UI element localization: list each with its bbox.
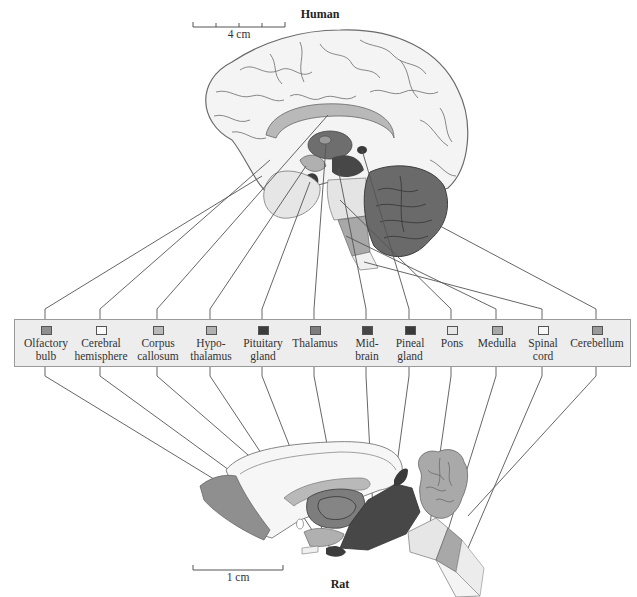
human-brain-illustration xyxy=(206,30,468,270)
legend-swatch xyxy=(41,326,52,335)
legend-swatch xyxy=(592,326,603,335)
legend-swatch xyxy=(447,326,458,335)
legend-item-hypothalamus: Hypo-thalamus xyxy=(181,320,241,363)
legend-label-line1: Spinal xyxy=(513,337,573,350)
legend-swatch xyxy=(362,326,373,335)
legend-label-line1: Hypo- xyxy=(181,337,241,350)
legend-swatch xyxy=(405,326,416,335)
legend-item-spinal-cord: Spinalcord xyxy=(513,320,573,363)
human-scale-label: 4 cm xyxy=(209,28,269,40)
legend-swatch xyxy=(492,326,503,335)
legend-swatch xyxy=(153,326,164,335)
human-scale-bar xyxy=(193,22,285,27)
legend-item-corpus-callosum: Corpuscallosum xyxy=(128,320,188,363)
legend-label-line2: hemisphere xyxy=(71,350,131,363)
figure-artwork xyxy=(0,0,637,597)
legend-label-line1: Olfactory xyxy=(16,337,76,350)
legend-item-cerebral-hemisphere: Cerebralhemisphere xyxy=(71,320,131,363)
legend-label-line2: bulb xyxy=(16,350,76,363)
legend-swatch xyxy=(538,326,549,335)
legend-swatch xyxy=(206,326,217,335)
brain-comparison-figure: Human 4 cm Rat 1 cm OlfactorybulbCerebra… xyxy=(0,0,637,597)
legend-label-line1: Cerebellum xyxy=(567,337,627,350)
legend-label-line2: gland xyxy=(380,350,440,363)
legend: OlfactorybulbCerebralhemisphereCorpuscal… xyxy=(14,319,631,367)
legend-item-cerebellum: Cerebellum xyxy=(567,320,627,350)
legend-label-line1: Cerebral xyxy=(71,337,131,350)
legend-label-line1: Thalamus xyxy=(285,337,345,350)
legend-item-olfactory-bulb: Olfactorybulb xyxy=(16,320,76,363)
legend-item-pituitary-gland: Pituitarygland xyxy=(233,320,293,363)
legend-label-line2: callosum xyxy=(128,350,188,363)
legend-swatch xyxy=(310,326,321,335)
legend-label-line1: Corpus xyxy=(128,337,188,350)
legend-label-line2: thalamus xyxy=(181,350,241,363)
legend-swatch xyxy=(258,326,269,335)
legend-label-line1: Pituitary xyxy=(233,337,293,350)
rat-scale-label: 1 cm xyxy=(208,571,268,583)
legend-item-thalamus: Thalamus xyxy=(285,320,345,350)
rat-title: Rat xyxy=(300,577,380,592)
rat-scale-bar xyxy=(193,565,283,570)
legend-label-line2: gland xyxy=(233,350,293,363)
legend-swatch xyxy=(96,326,107,335)
human-title: Human xyxy=(280,7,360,22)
legend-label-line2: cord xyxy=(513,350,573,363)
